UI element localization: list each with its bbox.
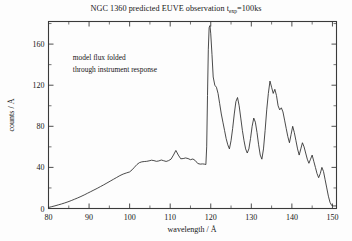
chart-plot-area: 8090100110120130140150 04080120160 model…	[0, 0, 352, 241]
annotation-line-1: model flux folded	[73, 53, 126, 62]
x-axis-ticks	[49, 22, 333, 209]
x-tick-label: 140	[286, 213, 298, 222]
x-tick-label: 80	[45, 213, 53, 222]
x-tick-label: 130	[245, 213, 257, 222]
plot-annotations: model flux foldedthrough instrument resp…	[73, 53, 158, 74]
figure-canvas: NGC 1360 predicted EUVE observation texp…	[0, 0, 352, 241]
y-tick-label: 0	[41, 205, 45, 214]
y-axis-tick-labels: 04080120160	[33, 40, 45, 213]
y-axis-ticks	[49, 24, 337, 209]
annotation-line-2: through instrument response	[73, 65, 158, 74]
y-tick-label: 120	[33, 81, 45, 90]
y-tick-label: 40	[37, 163, 45, 172]
x-tick-label: 120	[205, 213, 217, 222]
x-axis-title: wavelength / Å	[168, 225, 217, 234]
x-tick-label: 150	[326, 213, 338, 222]
y-tick-label: 160	[33, 40, 45, 49]
x-tick-label: 100	[124, 213, 136, 222]
x-tick-label: 90	[85, 213, 93, 222]
y-axis-title: counts / Å	[7, 98, 16, 131]
plot-frame	[49, 22, 337, 209]
x-axis-tick-labels: 8090100110120130140150	[45, 213, 339, 222]
x-tick-label: 110	[164, 213, 176, 222]
y-tick-label: 80	[37, 122, 45, 131]
